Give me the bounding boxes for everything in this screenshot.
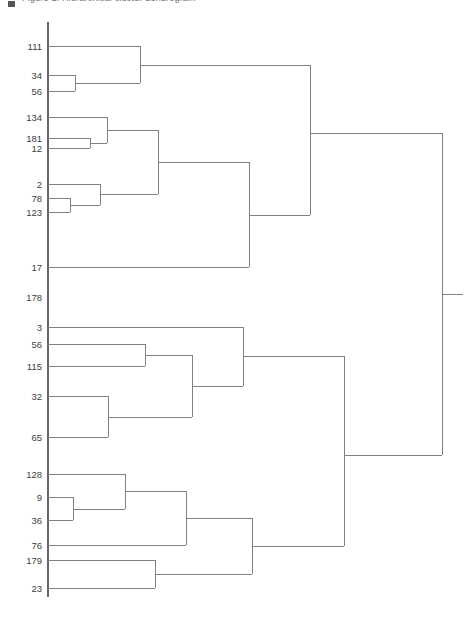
leaf-label: 34 bbox=[0, 70, 42, 81]
dendrogram-link bbox=[48, 396, 108, 437]
leaf-label: 111 bbox=[0, 41, 42, 52]
dendrogram-link bbox=[48, 491, 186, 545]
leaf-label: 56 bbox=[0, 339, 42, 350]
dendrogram-link bbox=[140, 65, 310, 215]
leaf-label: 2 bbox=[0, 179, 42, 190]
dendrogram-link bbox=[48, 117, 107, 143]
leaf-label: 3 bbox=[0, 322, 42, 333]
leaf-label: 23 bbox=[0, 583, 42, 594]
leaf-label: 12 bbox=[0, 143, 42, 154]
leaf-label: 17 bbox=[0, 262, 42, 273]
dendrogram-link bbox=[48, 497, 73, 520]
dendrogram-link bbox=[108, 355, 192, 417]
dendrogram-link bbox=[48, 162, 249, 267]
dendrogram-link bbox=[243, 356, 344, 546]
leaf-label: 128 bbox=[0, 469, 42, 480]
dendrogram-figure: Figure 1. Hierarchical cluster dendrogra… bbox=[0, 0, 465, 617]
leaf-label: 36 bbox=[0, 515, 42, 526]
leaf-label: 65 bbox=[0, 432, 42, 443]
dendrogram-links bbox=[48, 46, 463, 588]
dendrogram-link bbox=[48, 560, 155, 588]
dendrogram-plot bbox=[0, 0, 465, 617]
leaf-label: 179 bbox=[0, 555, 42, 566]
leaf-label: 115 bbox=[0, 361, 42, 372]
leaf-label: 76 bbox=[0, 540, 42, 551]
dendrogram-link bbox=[48, 75, 75, 91]
dendrogram-link bbox=[100, 130, 158, 194]
dendrogram-link bbox=[155, 518, 252, 574]
leaf-label: 134 bbox=[0, 112, 42, 123]
dendrogram-link bbox=[48, 46, 140, 83]
leaf-label: 9 bbox=[0, 492, 42, 503]
leaf-label: 56 bbox=[0, 86, 42, 97]
dendrogram-link bbox=[310, 133, 442, 455]
dendrogram-link bbox=[48, 198, 70, 212]
dendrogram-link bbox=[48, 474, 125, 509]
dendrogram-link bbox=[48, 344, 145, 366]
leaf-label: 178 bbox=[0, 292, 42, 303]
leaf-label: 123 bbox=[0, 207, 42, 218]
dendrogram-link bbox=[48, 184, 100, 205]
leaf-label: 32 bbox=[0, 391, 42, 402]
dendrogram-link bbox=[48, 138, 90, 148]
leaf-label: 78 bbox=[0, 193, 42, 204]
